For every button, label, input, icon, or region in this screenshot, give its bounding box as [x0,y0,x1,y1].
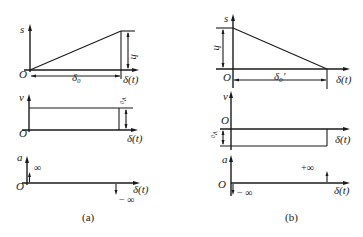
a-axis-arrow-icon [229,155,233,162]
delta-t-label: δ(t) [127,132,143,145]
h-label: h [212,45,224,51]
v-axis-arrow-icon [229,91,233,98]
fall-line [233,28,327,69]
delta-axis-arrow-icon [132,68,139,72]
s-axis-arrow-icon [28,24,32,31]
panel-b-displacement-graph: s O δ₀′ h δ(t) [212,12,352,89]
origin-label: O [223,71,231,83]
origin-label: O [19,127,27,139]
delta0-prime-arrow-left-icon [234,79,239,82]
s-label: s [20,23,24,35]
delta-t-label: δ(t) [133,183,149,196]
h-arrow-down-icon [127,64,130,69]
origin-label: O [218,178,226,190]
v-label: v [19,91,24,103]
delta-t-label: δ(t) [334,184,350,197]
v-label: v [223,90,228,102]
delta0-arrow-right-icon [115,75,120,78]
panel-a-acceleration-graph: a O ∞ δ(t) − ∞ [16,151,149,205]
delta0-arrow-left-icon [31,75,36,78]
panel-a: s O δ₀ h δ(t) v O v₀ δ(t) [16,23,149,224]
v0-arrow-down-icon [125,124,128,129]
h-arrow-up-icon [127,32,130,37]
panel-a-displacement-graph: s O δ₀ h δ(t) [19,23,141,86]
rise-line [30,31,121,70]
plus-infinity-label: +∞ [301,162,314,173]
delta-axis-arrow-icon [343,127,350,131]
infinity-label: ∞ [34,162,41,173]
delta-t-label: δ(t) [336,73,352,86]
delta-axis-arrow-icon [343,67,350,71]
s-label: s [224,12,228,24]
delta0-label: δ₀ [72,71,81,83]
impulse-up-arrow-icon [28,172,31,177]
a-label: a [17,151,23,163]
caption-a: (a) [82,211,95,224]
minus-infinity-label: − ∞ [119,194,134,205]
caption-b: (b) [285,211,298,224]
v0-label: v₀ [120,97,130,104]
origin-label: O [19,68,27,80]
v0-arrow-down-icon [222,140,225,145]
panel-b: s O δ₀′ h δ(t) v O v₀ δ(t) [211,12,352,224]
a-label: a [222,153,228,165]
h-arrow-up-icon [222,29,225,34]
v0-arrow-up-icon [125,109,128,114]
h-arrow-down-icon [222,63,225,68]
panel-b-acceleration-graph: a O − ∞ +∞ δ(t) [218,153,350,198]
delta-t-label: δ(t) [123,73,139,86]
minus-infinity-label: − ∞ [237,187,252,198]
v0-label: v₀ [211,131,221,138]
delta0-prime-arrow-right-icon [321,79,326,82]
delta-t-label: δ(t) [335,133,351,146]
impulse-down-arrow-icon [115,190,118,195]
cam-motion-diagram: s O δ₀ h δ(t) v O v₀ δ(t) [0,0,363,237]
a-axis-arrow-icon [25,156,29,163]
impulse-down-arrow-icon [232,190,235,195]
v-axis-arrow-icon [27,94,31,101]
s-axis-arrow-icon [231,14,235,21]
panel-b-velocity-graph: v O v₀ δ(t) [211,90,351,150]
impulse-up-arrow-icon [326,171,329,176]
panel-a-velocity-graph: v O v₀ δ(t) [19,91,143,145]
origin-label: O [221,114,229,126]
origin-label: O [16,180,24,192]
delta0-prime-label: δ₀′ [274,70,286,82]
h-label: h [129,54,141,60]
